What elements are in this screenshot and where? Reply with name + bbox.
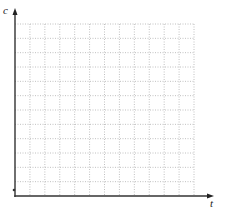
x-axis-label: t bbox=[210, 197, 214, 209]
dotted-grid bbox=[15, 24, 194, 196]
graph: c t bbox=[0, 0, 227, 221]
y-axis-label: c bbox=[3, 4, 8, 16]
origin-point-icon bbox=[13, 189, 16, 192]
y-axis-arrow-icon bbox=[13, 8, 18, 15]
